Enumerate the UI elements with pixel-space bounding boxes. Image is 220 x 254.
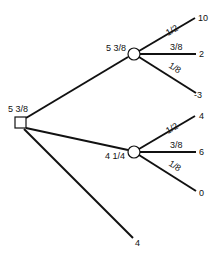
chance-a-payoff-2: 2 <box>199 49 204 59</box>
chance-node-a-value: 5 3/8 <box>106 43 126 53</box>
chance-b-payoff-1: 4 <box>199 111 204 121</box>
chance-a-payoff-1: 10 <box>198 13 208 23</box>
chance-b-prob-2: 3/8 <box>170 140 183 150</box>
chance-b-prob-3: 1/8 <box>167 158 183 173</box>
decision-node-square <box>15 117 26 128</box>
edge-chance-b-outcome-3 <box>139 155 196 191</box>
chance-a-payoff-3: -3 <box>194 90 202 100</box>
chance-b-payoff-2: 6 <box>199 147 204 157</box>
chance-a-prob-2: 3/8 <box>170 42 183 52</box>
chance-node-b-value: 4 1/4 <box>105 151 125 161</box>
chance-node-a-circle <box>128 48 140 60</box>
edge-root-to-chance-a <box>26 57 128 118</box>
chance-b-payoff-3: 0 <box>199 188 204 198</box>
decision-node-value: 5 3/8 <box>8 104 28 114</box>
terminal-payoff: 4 <box>135 238 140 248</box>
edge-root-to-terminal <box>24 129 133 238</box>
decision-tree-diagram: 5 3/8 5 3/8 1/2 3/8 1/8 10 2 -3 4 1/4 1/… <box>0 0 220 254</box>
chance-a-prob-3: 1/8 <box>167 60 183 75</box>
chance-node-b-circle <box>128 146 140 158</box>
edge-chance-a-outcome-3 <box>139 57 196 93</box>
